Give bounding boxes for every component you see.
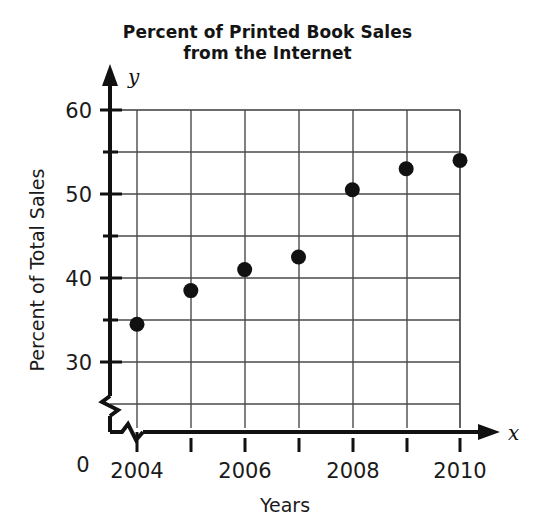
- y-tick-label-50: 50: [65, 183, 92, 207]
- vertical-gridlines: [137, 110, 460, 428]
- y-axis-variable-label: y: [127, 65, 140, 89]
- scatter-plot-svg: 60 50 40 30 2004 2006 2008 2010 0 y x Pe…: [0, 0, 535, 525]
- x-tick-label-2008: 2008: [326, 459, 379, 483]
- datapoint-2009: [399, 161, 414, 176]
- x-axis: [110, 424, 500, 440]
- y-tick-label-40: 40: [65, 267, 92, 291]
- datapoint-2008: [345, 182, 360, 197]
- y-axis-break-icon: [102, 396, 118, 416]
- y-axis-title: Percent of Total Sales: [26, 169, 48, 372]
- y-tick-label-60: 60: [65, 99, 92, 123]
- x-tick-label-2006: 2006: [218, 459, 271, 483]
- x-tick-labels: 2004 2006 2008 2010: [110, 459, 486, 483]
- x-axis-variable-label: x: [508, 421, 519, 445]
- x-axis-title: Years: [259, 494, 310, 516]
- x-tick-label-2004: 2004: [110, 459, 163, 483]
- chart-figure: Percent of Printed Book Sales from the I…: [0, 0, 535, 525]
- x-tick-marks: [137, 432, 460, 452]
- datapoint-2004: [130, 317, 145, 332]
- x-tick-label-2010: 2010: [433, 459, 486, 483]
- y-tick-labels: 60 50 40 30: [65, 99, 92, 375]
- x-axis-arrow-icon: [478, 424, 500, 440]
- datapoint-2006: [237, 262, 252, 277]
- origin-label: 0: [76, 453, 89, 477]
- y-tick-label-30: 30: [65, 351, 92, 375]
- y-axis: [102, 64, 118, 432]
- y-axis-arrow-icon: [102, 64, 118, 86]
- datapoint-2007: [291, 250, 306, 265]
- datapoint-2005: [183, 283, 198, 298]
- datapoint-2010: [453, 153, 468, 168]
